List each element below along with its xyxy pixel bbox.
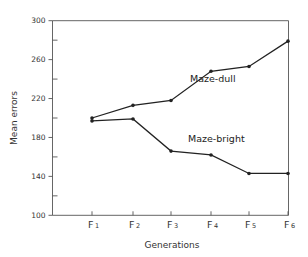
y-axis: 100140180220260300 [31,16,57,220]
plot-border [53,21,289,216]
data-point [169,99,173,103]
data-point [286,172,290,176]
series-label-maze-bright: Maze-bright [188,133,245,144]
x-tick-label: F4 [207,219,218,230]
x-tick-label: F6 [284,219,295,230]
plot-frame [53,21,289,216]
data-point [286,39,290,43]
x-tick-label: F5 [245,219,256,230]
data-point [169,149,173,153]
x-axis: F1F2F3F4F5F6 [88,211,295,230]
y-tick-label: 300 [31,16,46,25]
y-axis-title: Mean errors [9,91,19,145]
x-tick-label: F2 [129,219,140,230]
x-axis-title: Generations [145,240,200,250]
line-chart: 100140180220260300 F1F2F3F4F5F6 Mean err… [0,0,308,257]
series-group [90,39,290,175]
x-tick-label: F3 [167,219,178,230]
x-tick-label: F1 [88,219,99,230]
y-tick-label: 220 [31,94,46,103]
data-point [247,172,251,176]
data-point [247,65,251,69]
series-line-maze-bright [92,119,288,173]
series-label-maze-dull: Maze-dull [190,73,236,84]
y-tick-label: 180 [31,133,46,142]
data-point [90,119,94,123]
data-point [131,117,135,121]
data-point [131,104,135,108]
data-point [209,153,213,157]
y-tick-label: 140 [31,172,46,181]
y-tick-label: 100 [31,211,46,220]
y-tick-label: 260 [31,55,46,64]
